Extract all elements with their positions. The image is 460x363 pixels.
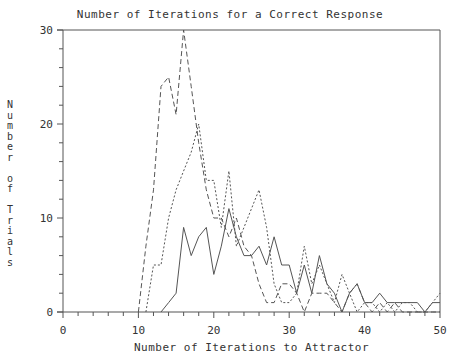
x-tick-label: 0 [60,324,67,337]
y-tick-label: 20 [40,118,53,131]
y-tick-label: 10 [40,212,53,225]
x-tick-label: 50 [433,324,446,337]
x-tick-label: 10 [132,324,145,337]
line-chart: 010203001020304050 [0,0,460,363]
x-tick-label: 40 [358,324,371,337]
x-tick-label: 30 [283,324,296,337]
y-tick-label: 0 [46,306,53,319]
series-dotted-line [146,124,440,312]
axes: 010203001020304050 [40,24,447,337]
y-tick-label: 30 [40,24,53,37]
series-solid-line [161,209,440,312]
series-lines [138,30,440,312]
x-tick-label: 20 [207,324,220,337]
